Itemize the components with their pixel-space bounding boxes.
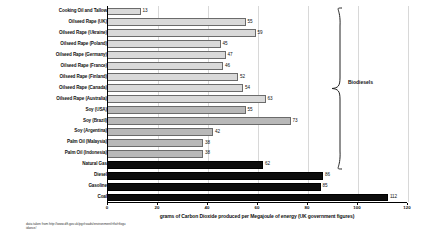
category-label: Gasoline — [3, 184, 107, 189]
tick-label: 0 — [106, 206, 108, 210]
bar-value-label: 73 — [293, 119, 298, 124]
category-label: Diesel — [3, 173, 107, 178]
category-label: Cooking Oil and Tallow — [3, 9, 107, 14]
bar-value-label: 42 — [215, 130, 220, 135]
tick-label: 60 — [255, 206, 260, 210]
bar-value-label: 38 — [205, 151, 210, 156]
bar — [108, 106, 246, 114]
biodiesels-label: Biodiesels — [348, 80, 373, 85]
category-label: Oilseed Rape (France) — [3, 64, 107, 69]
bar — [108, 150, 203, 158]
bar — [108, 161, 263, 169]
bar-value-label: 46 — [225, 64, 230, 69]
bar-value-label: 86 — [325, 173, 330, 178]
tick-label: 100 — [353, 206, 360, 210]
category-label: Palm Oil (Indonesia) — [3, 151, 107, 156]
bar — [108, 183, 321, 191]
x-axis-title: grams of Carbon Dioxide produced per Meg… — [107, 214, 407, 220]
tick-label: 120 — [403, 206, 410, 210]
x-axis-ticks: 020406080100120 — [107, 203, 407, 213]
category-label: Oilseed Rape (Finland) — [3, 75, 107, 80]
category-label: Oilseed Rape (Australia) — [3, 97, 107, 102]
bar — [108, 73, 238, 81]
bar-row: 86 — [108, 172, 407, 180]
bar — [108, 194, 388, 202]
tick-label: 20 — [155, 206, 160, 210]
bar — [108, 62, 223, 70]
bar-value-label: 85 — [323, 184, 328, 189]
bar-value-label: 13 — [143, 9, 148, 14]
co2-emissions-bar-chart: Cooking Oil and TallowOilseed Rape (UK)O… — [0, 0, 428, 242]
bar-value-label: 54 — [245, 86, 250, 91]
bar — [108, 172, 323, 180]
bar — [108, 40, 221, 48]
bar-value-label: 112 — [390, 195, 397, 200]
biodiesels-brace-group: Biodiesels — [330, 6, 428, 171]
bar-value-label: 45 — [223, 42, 228, 47]
tick-label: 40 — [205, 206, 210, 210]
bar-value-label: 38 — [205, 141, 210, 146]
category-label: Soy (Brazil) — [3, 119, 107, 124]
bar-value-label: 52 — [240, 75, 245, 80]
bar-value-label: 63 — [268, 97, 273, 102]
category-label: Oilseed Rape (Canada) — [3, 86, 107, 91]
bar-value-label: 62 — [265, 162, 270, 167]
bar — [108, 117, 291, 125]
bar — [108, 95, 266, 103]
tick-label: 80 — [305, 206, 310, 210]
category-label: Natural Gas — [3, 162, 107, 167]
bar — [108, 128, 213, 136]
curly-brace-icon — [330, 6, 348, 171]
source-note: data taken from http://www.dft.gov.uk/pg… — [26, 222, 126, 231]
bar-value-label: 59 — [258, 31, 263, 36]
bar-row: 112 — [108, 194, 407, 202]
y-axis-category-labels: Cooking Oil and TallowOilseed Rape (UK)O… — [0, 6, 107, 203]
bar — [108, 18, 246, 26]
bar-row: 85 — [108, 183, 407, 191]
bar — [108, 29, 256, 37]
bar — [108, 84, 243, 92]
category-label: Soy (Argentina) — [3, 129, 107, 134]
category-label: Oilseed Rape (UK) — [3, 20, 107, 25]
bar — [108, 51, 226, 59]
category-label: Soy (USA) — [3, 108, 107, 113]
category-label: Oilseed Rape (Germany) — [3, 53, 107, 58]
category-label: Oilseed Rape (Poland) — [3, 42, 107, 47]
bar-value-label: 47 — [228, 53, 233, 58]
category-label: Palm Oil (Malaysia) — [3, 140, 107, 145]
bar-value-label: 55 — [248, 108, 253, 113]
bar — [108, 8, 141, 16]
bar — [108, 139, 203, 147]
category-label: Oilseed Rape (Ukraine) — [3, 31, 107, 36]
category-label: Coal — [3, 195, 107, 200]
bar-value-label: 55 — [248, 20, 253, 25]
